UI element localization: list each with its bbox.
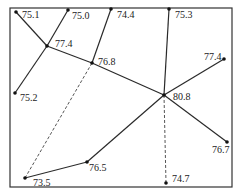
node-graph-diagram: 75.175.074.475.377.476.875.277.480.876.7… xyxy=(0,0,237,195)
edge-n9-n10 xyxy=(164,95,227,142)
node-dot xyxy=(162,93,166,97)
node-label: 76.7 xyxy=(212,144,230,155)
node-dot xyxy=(90,61,94,65)
node-n13: 74.7 xyxy=(164,173,189,185)
edge-n8-n9 xyxy=(164,59,224,95)
edge-n9-n11 xyxy=(87,95,164,162)
node-n7: 75.2 xyxy=(13,91,37,103)
edge-n11-n12 xyxy=(25,162,87,178)
node-n11: 76.5 xyxy=(85,160,106,173)
edge-n6-n9 xyxy=(92,63,164,95)
node-label: 74.7 xyxy=(172,173,190,184)
node-label: 75.0 xyxy=(72,10,90,21)
node-dot xyxy=(14,10,18,14)
diagram-frame xyxy=(10,8,232,187)
node-label: 77.4 xyxy=(55,38,73,49)
node-dot xyxy=(164,181,168,185)
node-n10: 76.7 xyxy=(212,140,230,155)
dashed-edge-n9-n13 xyxy=(164,95,166,183)
node-label: 73.5 xyxy=(33,177,51,188)
node-label: 76.8 xyxy=(98,56,116,67)
node-dot xyxy=(13,91,17,95)
edge-n4-n9 xyxy=(164,9,169,95)
node-label: 80.8 xyxy=(173,91,191,102)
node-dot xyxy=(66,8,70,12)
node-n2: 75.0 xyxy=(66,8,89,21)
dashed-edge-n12-n6 xyxy=(25,63,92,178)
node-label: 76.5 xyxy=(89,162,107,173)
node-dot xyxy=(45,44,49,48)
edge-n5-n7 xyxy=(15,46,47,93)
node-dot xyxy=(23,176,27,180)
edge-n3-n6 xyxy=(92,9,111,63)
node-dot xyxy=(222,57,226,61)
node-label: 75.1 xyxy=(22,9,40,20)
node-n3: 74.4 xyxy=(109,7,134,20)
node-n4: 75.3 xyxy=(167,7,192,20)
nodes-layer: 75.175.074.475.377.476.875.277.480.876.7… xyxy=(13,7,229,188)
node-label: 75.2 xyxy=(20,92,38,103)
node-dot xyxy=(109,7,113,11)
node-dot xyxy=(167,7,171,11)
node-label: 75.3 xyxy=(175,9,193,20)
node-label: 77.4 xyxy=(204,51,222,62)
node-label: 74.4 xyxy=(117,9,135,20)
edges-layer xyxy=(15,9,227,183)
